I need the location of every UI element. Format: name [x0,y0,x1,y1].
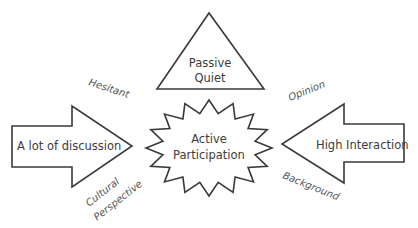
triangle-label-line2: Quiet [194,71,226,85]
annotation-opinion: Opinion [287,78,327,103]
left-arrow-label: A lot of discussion [17,139,121,153]
triangle-label-line1: Passive [189,56,232,70]
participation-diagram: Passive Quiet A lot of discussion High I… [0,0,418,228]
active-participation-star: Active Participation [146,100,272,196]
annotation-hesitant: Hesitant [87,76,131,100]
discussion-arrow: A lot of discussion [12,106,132,187]
star-label-line1: Active [191,132,227,146]
star-label-line2: Participation [173,148,245,162]
right-arrow-label: High Interaction [316,138,408,152]
interaction-arrow: High Interaction [282,104,408,183]
passive-quiet-triangle: Passive Quiet [157,13,264,89]
